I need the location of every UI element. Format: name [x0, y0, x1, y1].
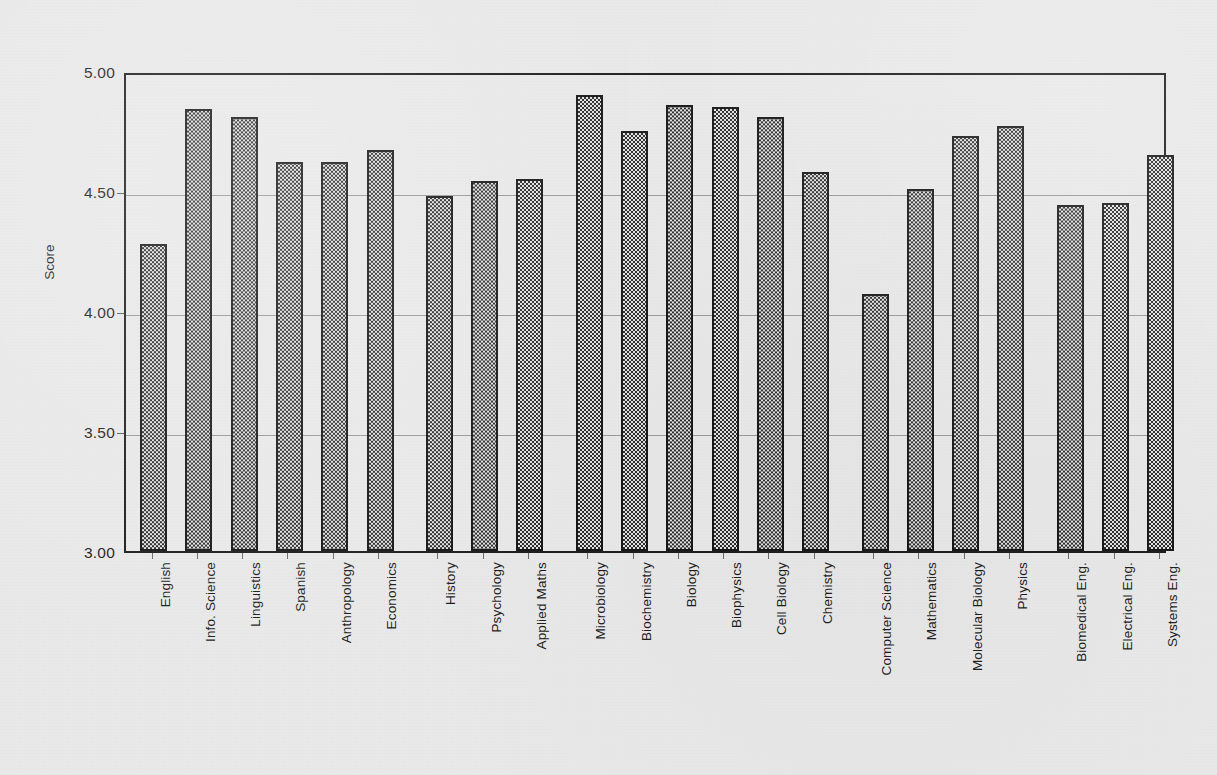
x-axis-tick-label: English [158, 562, 173, 607]
x-axis-tick-label: Biomedical Eng. [1074, 562, 1089, 662]
x-axis-tick-label: Molecular Biology [970, 562, 985, 671]
x-axis-tick-label: Info. Science [203, 562, 218, 642]
x-axis: EnglishInfo. ScienceLinguisticsSpanishAn… [0, 0, 1217, 775]
x-axis-tick-mark [1159, 553, 1160, 559]
x-axis-tick-label: Computer Science [879, 562, 894, 675]
x-axis-tick-label: Applied Maths [534, 562, 549, 650]
x-axis-tick-label: Psychology [489, 562, 504, 633]
x-axis-tick-mark [333, 553, 334, 559]
x-axis-tick-mark [378, 553, 379, 559]
x-axis-tick-label: History [443, 562, 458, 605]
x-axis-tick-mark [528, 553, 529, 559]
x-axis-tick-label: Systems Eng. [1165, 562, 1180, 647]
x-axis-tick-mark [918, 553, 919, 559]
x-axis-tick-label: Mathematics [924, 562, 939, 640]
x-axis-tick-label: Spanish [293, 562, 308, 612]
x-axis-tick-mark [1068, 553, 1069, 559]
x-axis-tick-label: Economics [384, 562, 399, 629]
x-axis-tick-mark [587, 553, 588, 559]
x-axis-tick-mark [633, 553, 634, 559]
x-axis-tick-label: Biology [684, 562, 699, 607]
x-axis-tick-mark [814, 553, 815, 559]
x-axis-tick-label: Physics [1015, 562, 1030, 610]
x-axis-tick-mark [1009, 553, 1010, 559]
x-axis-tick-mark [197, 553, 198, 559]
x-axis-tick-mark [873, 553, 874, 559]
x-axis-tick-label: Biophysics [729, 562, 744, 628]
x-axis-tick-mark [287, 553, 288, 559]
score-bar-chart: 5.004.504.003.503.00 Score EnglishInfo. … [0, 0, 1217, 775]
x-axis-tick-mark [1114, 553, 1115, 559]
x-axis-tick-mark [437, 553, 438, 559]
x-axis-tick-mark [483, 553, 484, 559]
x-axis-tick-label: Linguistics [248, 562, 263, 627]
x-axis-tick-mark [723, 553, 724, 559]
x-axis-tick-mark [152, 553, 153, 559]
x-axis-tick-label: Anthropology [339, 562, 354, 643]
x-axis-tick-label: Cell Biology [774, 562, 789, 635]
x-axis-tick-mark [242, 553, 243, 559]
x-axis-tick-mark [964, 553, 965, 559]
x-axis-tick-label: Chemistry [820, 562, 835, 624]
x-axis-tick-label: Microbiology [593, 562, 608, 640]
x-axis-tick-mark [678, 553, 679, 559]
x-axis-tick-label: Biochemistry [639, 562, 654, 641]
x-axis-tick-mark [768, 553, 769, 559]
x-axis-tick-label: Electrical Eng. [1120, 562, 1135, 651]
